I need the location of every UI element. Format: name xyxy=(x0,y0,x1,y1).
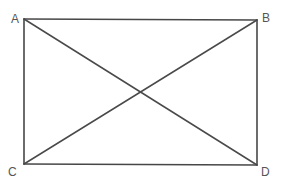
side-ab xyxy=(24,19,257,20)
vertex-label-d: D xyxy=(261,166,270,178)
side-dc xyxy=(24,164,257,165)
vertex-label-b: B xyxy=(262,12,270,24)
vertex-label-a: A xyxy=(11,13,19,25)
rectangle-diagram xyxy=(0,0,283,186)
vertex-label-c: C xyxy=(8,166,17,178)
